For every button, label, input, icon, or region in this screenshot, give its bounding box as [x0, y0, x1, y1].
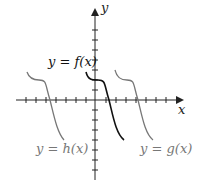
label-g: y = g(x): [139, 141, 192, 156]
curve-f: [86, 72, 124, 140]
y-arrow-icon: [91, 8, 99, 16]
label-f: y = f(x): [47, 54, 97, 69]
label-h: y = h(x): [35, 141, 88, 156]
x-axis-label: x: [178, 102, 186, 117]
curve-h: [27, 72, 64, 140]
y-axis-label: y: [100, 0, 109, 15]
curve-g: [115, 70, 153, 140]
graph: y x y = f(x) y = g(x) y = h(x): [0, 0, 198, 187]
y-axis: [92, 12, 98, 180]
x-axis: [16, 97, 182, 103]
